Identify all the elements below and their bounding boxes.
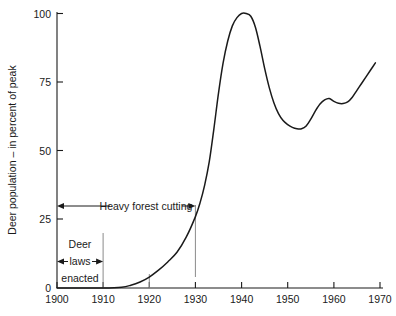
x-tick-label-1900: 1900: [45, 293, 69, 305]
y-tick-label-75: 75: [39, 76, 51, 88]
x-tick-label-1920: 1920: [138, 293, 162, 305]
deer-laws-line-2: laws: [69, 255, 90, 267]
arrow-head-left-icon: [57, 203, 64, 209]
deer-laws-enacted-annotation: Deer laws enacted: [57, 238, 103, 284]
y-tick-label-100: 100: [33, 8, 51, 20]
chart-canvas: 100 75 50 25 0 Deer population – in perc…: [0, 0, 396, 316]
x-tick-label-1960: 1960: [322, 293, 346, 305]
y-tick-label-0: 0: [45, 282, 51, 294]
heavy-forest-cutting-label: Heavy forest cutting: [100, 200, 193, 212]
y-axis-ticks: [57, 14, 63, 220]
y-tick-label-50: 50: [39, 145, 51, 157]
x-tick-label-1930: 1930: [184, 293, 208, 305]
deer-laws-line-1: Deer: [69, 238, 92, 250]
x-tick-label-1970: 1970: [368, 293, 392, 305]
heavy-forest-cutting-annotation: Heavy forest cutting: [57, 200, 195, 212]
x-tick-label-1940: 1940: [230, 293, 254, 305]
arrow-head-right-icon-2: [96, 259, 103, 265]
y-tick-label-25: 25: [39, 213, 51, 225]
x-axis-ticks: [57, 282, 380, 288]
deer-population-chart: 100 75 50 25 0 Deer population – in perc…: [0, 0, 396, 316]
deer-laws-line-3: enacted: [61, 272, 99, 284]
arrow-head-left-icon-2: [57, 259, 64, 265]
x-tick-label-1950: 1950: [276, 293, 300, 305]
x-tick-label-1910: 1910: [91, 293, 115, 305]
y-axis-title: Deer population – in percent of peak: [6, 65, 18, 235]
deer-population-curve: [57, 13, 375, 288]
